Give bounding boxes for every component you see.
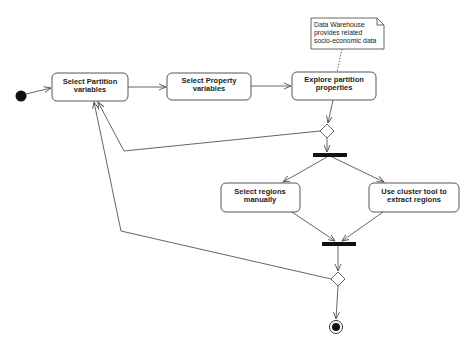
decision-node-1 <box>320 124 334 138</box>
activity-select-regions-manually: Select regions manually <box>221 183 300 212</box>
note-line-1: Data Warehouse <box>314 21 365 28</box>
svg-text:variables: variables <box>193 84 226 93</box>
join-bar <box>322 242 356 246</box>
initial-node <box>16 91 27 102</box>
activity-select-partition-variables: Select Partition variables <box>52 73 128 101</box>
note-data-warehouse: Data Warehouse provides related socio-ec… <box>311 18 384 49</box>
activity-explore-partition-properties: Explore partition properties <box>292 72 376 100</box>
svg-text:extract regions: extract regions <box>387 195 441 204</box>
decision-node-2 <box>331 272 345 286</box>
note-anchor <box>337 49 342 72</box>
activity-select-property-variables: Select Property variables <box>167 73 251 100</box>
fork-bar <box>313 153 347 157</box>
svg-text:variables: variables <box>74 85 107 94</box>
control-flows <box>26 86 384 319</box>
note-line-2: provides related <box>314 29 363 37</box>
svg-text:manually: manually <box>244 195 277 204</box>
activity-diagram: Data Warehouse provides related socio-ec… <box>0 0 473 351</box>
note-line-3: socio-economic data <box>314 37 377 44</box>
activity-use-cluster-tool: Use cluster tool to extract regions <box>369 183 459 212</box>
svg-text:properties: properties <box>316 83 353 92</box>
